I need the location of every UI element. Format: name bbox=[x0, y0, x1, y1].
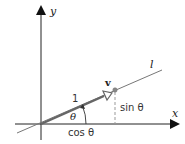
vector-arrowhead-icon bbox=[103, 91, 112, 100]
vector-v-label: v bbox=[104, 77, 112, 88]
cos-theta-label: cos θ bbox=[68, 127, 94, 138]
y-axis-label: y bbox=[49, 5, 57, 18]
line-l-label: l bbox=[150, 58, 154, 71]
vector-tip-point bbox=[113, 88, 117, 92]
x-axis bbox=[15, 119, 180, 129]
angle-theta-label: θ bbox=[70, 111, 76, 122]
y-axis-arrow-icon bbox=[36, 5, 46, 15]
x-axis-arrow-icon bbox=[170, 119, 180, 129]
x-axis-label: x bbox=[172, 107, 179, 120]
unit-vector-diagram: y x l v 1 θ sin θ cos θ bbox=[0, 0, 185, 144]
y-axis bbox=[36, 5, 46, 140]
sin-theta-label: sin θ bbox=[120, 102, 144, 113]
unit-length-label: 1 bbox=[72, 93, 78, 104]
